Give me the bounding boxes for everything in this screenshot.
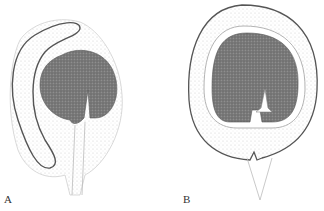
panel-label-a: A (4, 193, 12, 205)
ovule-illustration-b (162, 0, 324, 211)
nucellus-dark (212, 33, 298, 122)
figure-panel-b: B (162, 0, 324, 211)
panel-label-b: B (183, 193, 190, 205)
funiculus (247, 158, 272, 200)
ovule-illustration-a (0, 0, 162, 211)
figure-panel-a: A (0, 0, 162, 211)
